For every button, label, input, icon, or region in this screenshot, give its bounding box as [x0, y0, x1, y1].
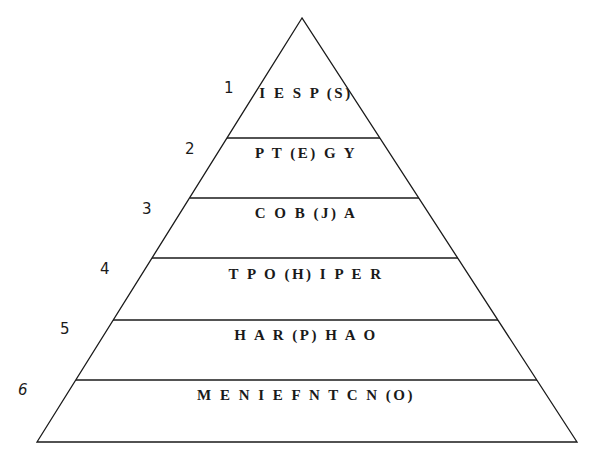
- level-number-2: 2: [185, 142, 195, 157]
- level-text-6: M E N I E F N T C N (O): [197, 388, 415, 403]
- level-number-3: 3: [142, 202, 152, 217]
- level-text-2: P T (E) G Y: [255, 146, 357, 161]
- level-text-5: H A R (P) H A O: [234, 328, 377, 343]
- level-number-6: 6: [18, 383, 28, 398]
- level-number-1: 1: [224, 81, 234, 96]
- pyramid-triangle: [37, 18, 577, 442]
- level-number-5: 5: [60, 322, 70, 337]
- level-number-4: 4: [100, 262, 110, 277]
- level-text-3: C O B (J) A: [255, 206, 358, 221]
- level-text-1: I E S P (S): [259, 86, 352, 101]
- level-text-4: T P O (H) I P E R: [228, 267, 383, 282]
